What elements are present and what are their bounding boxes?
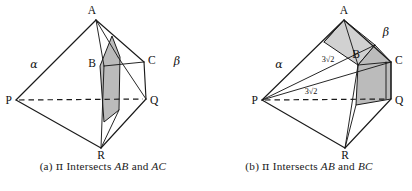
caption-a-conj: and: [132, 160, 149, 172]
vertex-label-a: A: [88, 4, 97, 16]
vertex-label-b-a: A: [340, 4, 349, 16]
edge-p-r: [16, 100, 101, 148]
vertex-label-b: B: [88, 57, 96, 69]
measure-label-pq: 3√2: [305, 87, 318, 96]
figure-a-panel: A B C P Q R α β (a) π Intersects AB and …: [0, 0, 206, 191]
plane-label-b-alpha: α: [275, 58, 283, 71]
caption-a-edge2: AC: [152, 160, 167, 172]
caption-a-verb: Intersects: [66, 160, 111, 172]
caption-b-conj: and: [338, 160, 355, 172]
vertex-label-b-q: Q: [395, 94, 404, 106]
figure-a-diagram: A B C P Q R α β: [0, 0, 206, 165]
figure-pair: A B C P Q R α β (a) π Intersects AB and …: [0, 0, 412, 191]
vertex-label-b-p: P: [252, 94, 258, 106]
dashed-line-pq-a: [19, 99, 143, 100]
caption-b-edge2: BC: [358, 160, 373, 172]
figure-b-caption: (b) π Intersects AB and BC: [206, 160, 412, 173]
edge-b-p-r: [262, 100, 345, 148]
vertex-label-b-c: C: [395, 54, 403, 66]
edge-a-p: [16, 20, 96, 100]
figure-b-diagram: 3√2 3√2 A B C P Q R α β: [206, 0, 412, 165]
caption-a-edge1: AB: [115, 160, 129, 172]
measure-label-pb: 3√2: [322, 55, 335, 64]
figure-b-panel: 3√2 3√2 A B C P Q R α β (b) π Intersects…: [206, 0, 412, 191]
plane-label-b-beta: β: [382, 26, 389, 39]
caption-b-verb: Intersects: [273, 160, 318, 172]
caption-b-edge1: AB: [321, 160, 335, 172]
figure-a-caption: (a) π Intersects AB and AC: [0, 160, 206, 173]
caption-b-tag: (b): [245, 160, 259, 172]
vertex-label-b-b: B: [352, 48, 360, 60]
caption-a-tag: (a): [40, 160, 53, 172]
vertex-label-c: C: [148, 54, 156, 66]
caption-b-symbol: π: [262, 160, 270, 173]
plane-label-alpha: α: [30, 58, 38, 71]
vertex-label-q: Q: [150, 94, 159, 106]
vertex-label-p: P: [6, 94, 12, 106]
edge-q-c: [144, 62, 146, 99]
cross-section-shade-a: [100, 36, 120, 122]
plane-label-beta: β: [173, 55, 180, 68]
caption-a-symbol: π: [56, 160, 64, 173]
